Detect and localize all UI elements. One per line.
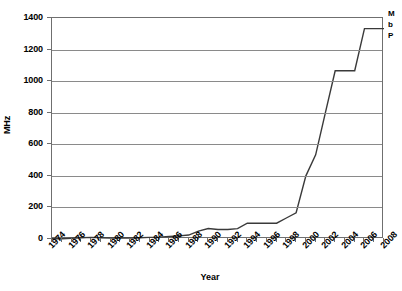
- y-tick-label: 200: [1, 202, 43, 211]
- gridline: [52, 81, 382, 82]
- y-tick-label: 1400: [1, 13, 43, 22]
- legend-item: P: [388, 30, 402, 41]
- legend-item: M: [388, 8, 402, 19]
- chart-container: 0200400600800100012001400 MHz 1974197619…: [0, 0, 402, 291]
- y-tick-label: 1000: [1, 76, 43, 85]
- gridline: [52, 50, 382, 51]
- gridline: [52, 144, 382, 145]
- legend: MbP: [388, 8, 402, 41]
- plot-area: [51, 17, 383, 238]
- gridline: [52, 176, 382, 177]
- y-tick-label: 400: [1, 171, 43, 180]
- series-line: [52, 18, 384, 239]
- legend-item: b: [388, 19, 402, 30]
- x-axis-title: Year: [150, 272, 270, 282]
- gridline: [52, 207, 382, 208]
- y-tick-label: 1200: [1, 45, 43, 54]
- y-axis-title: MHz: [2, 105, 12, 145]
- gridline: [52, 113, 382, 114]
